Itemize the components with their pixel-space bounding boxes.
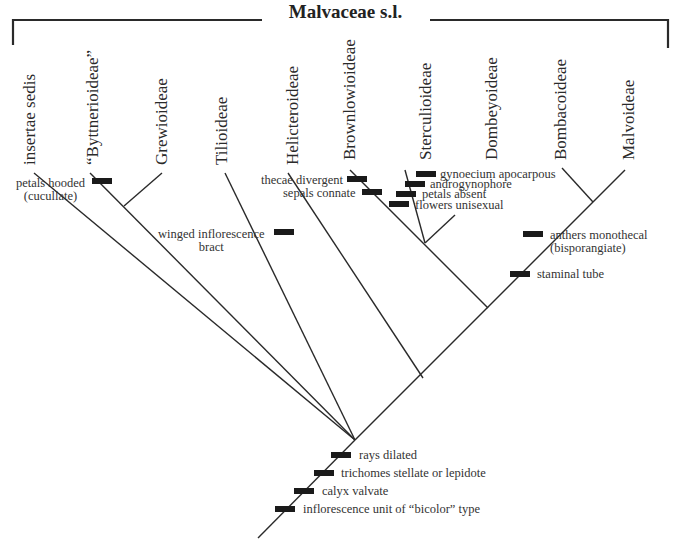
character-bar bbox=[275, 506, 295, 512]
char-inflorescence-unit: inflorescence unit of “bicolor” type bbox=[303, 503, 480, 516]
taxon-tilioideae: Tilioideae bbox=[212, 97, 232, 165]
character-bar bbox=[396, 191, 416, 197]
character-bar bbox=[389, 201, 409, 207]
char-sepals-connate: sepals connate bbox=[283, 187, 356, 200]
taxon-malvoideae: Malvoideae bbox=[619, 80, 639, 160]
taxon-bombacoideae: Bombacoideae bbox=[551, 59, 571, 160]
taxon-dombeyoideae: Dombeyoideae bbox=[482, 57, 502, 160]
char-petals-hooded: petals hooded (cucullate) bbox=[16, 177, 85, 203]
taxon-byttnerioideae: “Byttnerioideae” bbox=[83, 50, 103, 165]
taxon-insertae-sedis: insertae sedis bbox=[20, 74, 40, 165]
character-bar bbox=[274, 229, 294, 235]
character-bar bbox=[510, 271, 530, 277]
bracket bbox=[430, 20, 668, 48]
clade-title: Malvaceae s.l. bbox=[0, 1, 691, 23]
character-bar bbox=[294, 488, 314, 494]
char-winged-inflorescence: winged inflorescence bract bbox=[158, 228, 265, 254]
taxon-grewioideae: Grewioideae bbox=[152, 78, 172, 165]
character-bar bbox=[331, 452, 351, 458]
char-anthers-monothecal: anthers monothecal (bisporangiate) bbox=[550, 229, 648, 255]
char-trichomes: trichomes stellate or lepidote bbox=[341, 467, 486, 480]
character-bar bbox=[347, 176, 367, 182]
character-bar bbox=[523, 231, 543, 237]
character-bar bbox=[362, 189, 382, 195]
character-bar bbox=[92, 178, 112, 184]
character-bar bbox=[314, 470, 334, 476]
char-flowers-unisexual: flowers unisexual bbox=[415, 199, 504, 212]
taxon-brownlowioideae: Brownlowioideae bbox=[340, 39, 360, 160]
taxon-helicteroideae: Helicteroideae bbox=[283, 66, 303, 165]
char-calyx-valvate: calyx valvate bbox=[322, 485, 388, 498]
char-rays-dilated: rays dilated bbox=[359, 449, 417, 462]
bracket bbox=[13, 20, 262, 45]
char-staminal-tube: staminal tube bbox=[537, 268, 604, 281]
taxon-sterculioideae: Sterculioideae bbox=[416, 63, 436, 160]
